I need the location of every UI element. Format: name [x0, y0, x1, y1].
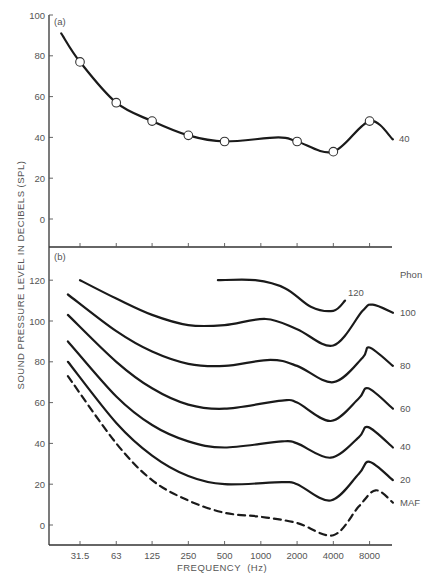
curve-label-60: 60	[400, 403, 411, 414]
x-tick-label: 125	[144, 550, 160, 561]
x-tick-label: 250	[180, 550, 196, 561]
x-tick-label: 500	[217, 550, 233, 561]
curve-label-80: 80	[400, 360, 411, 371]
curve-label-40: 40	[400, 441, 411, 452]
x-tick-label: 8000	[359, 550, 380, 561]
y-tick-label-bottom: 20	[34, 479, 45, 490]
curve-20-phon	[68, 362, 393, 501]
y-tick-label-top: 40	[34, 132, 45, 143]
x-tick-label: 4000	[323, 550, 344, 561]
panel-b-label: (b)	[54, 251, 66, 262]
curve-40-phon	[68, 341, 393, 457]
curve-label-120: 120	[348, 287, 364, 298]
curve-100-phon	[80, 280, 393, 346]
data-point-marker	[220, 137, 229, 146]
data-point-marker	[184, 131, 193, 140]
data-point-marker	[112, 98, 121, 107]
y-tick-label-top: 60	[34, 91, 45, 102]
equal-loudness-chart: 31.5631252505001000200040008000100806040…	[0, 0, 430, 587]
curve-label-100: 100	[400, 307, 416, 318]
curve-labels: 4012010080604020MAF	[348, 133, 420, 507]
curve-40-phon-measured	[61, 33, 393, 152]
y-tick-label-top: 20	[34, 173, 45, 184]
data-point-marker	[365, 117, 374, 126]
curve-label-maf: MAF	[400, 497, 420, 508]
x-tick-label: 31.5	[71, 550, 90, 561]
data-point-marker	[329, 147, 338, 156]
x-axis-title: FREQUENCY (Hz)	[177, 562, 267, 573]
tick-labels: 31.5631252505001000200040008000100806040…	[29, 10, 380, 562]
y-tick-label-bottom: 60	[34, 397, 45, 408]
curve-label-20: 20	[400, 474, 411, 485]
y-tick-label-top: 0	[40, 214, 45, 225]
y-tick-label-bottom: 40	[34, 438, 45, 449]
curve-maf	[68, 376, 393, 535]
panel-a-curves	[61, 33, 393, 152]
data-point-marker	[293, 137, 302, 146]
tick-marks	[49, 15, 370, 545]
curve-label-40: 40	[399, 133, 410, 144]
panel-b-curves	[68, 280, 393, 536]
y-tick-label-bottom: 0	[40, 520, 45, 531]
panel-a-label: (a)	[54, 16, 66, 27]
legend-title-phon: Phon	[400, 269, 422, 280]
data-point-marker	[76, 58, 85, 67]
x-tick-label: 1000	[250, 550, 271, 561]
y-tick-label-bottom: 80	[34, 356, 45, 367]
x-tick-label: 63	[111, 550, 122, 561]
y-axis-title: SOUND PRESSURE LEVEL IN DECIBELS (SPL)	[15, 161, 26, 390]
y-tick-label-bottom: 120	[29, 275, 45, 286]
curve-120-phon	[218, 280, 345, 312]
x-tick-label: 2000	[287, 550, 308, 561]
y-tick-label-top: 80	[34, 50, 45, 61]
data-point-marker	[148, 117, 157, 126]
y-tick-label-top: 100	[29, 10, 45, 21]
y-tick-label-bottom: 100	[29, 316, 45, 327]
